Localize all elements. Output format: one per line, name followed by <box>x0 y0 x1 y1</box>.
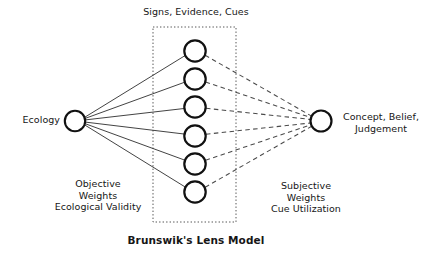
cue-4-judgement-line <box>206 123 310 134</box>
cue-node-2[interactable] <box>184 68 205 89</box>
ecology-cue-5-line <box>85 124 184 160</box>
cue-node-1[interactable] <box>184 40 205 61</box>
cue-3-judgement-line <box>206 108 310 119</box>
ecology-label: Ecology <box>4 114 60 126</box>
ecology-cue-2-line <box>85 82 184 118</box>
cue-node-4[interactable] <box>184 125 205 146</box>
cue-node-3[interactable] <box>184 96 205 117</box>
subjective-weights-label: Subjective Weights Cue Utilization <box>256 180 356 215</box>
cue-1-judgement-line <box>205 55 311 116</box>
cue-5-judgement-line <box>206 125 311 160</box>
brunswik-lens-diagram: Signs, Evidence, Cues Ecology Concept, B… <box>0 0 427 260</box>
ecology-node[interactable] <box>65 111 85 131</box>
cue-to-judgement-lines <box>205 55 311 187</box>
ecology-cue-4-line <box>85 122 184 134</box>
signs-evidence-cues-label: Signs, Evidence, Cues <box>136 6 256 18</box>
cue-6-judgement-line <box>205 126 311 187</box>
judgement-node[interactable] <box>311 111 332 132</box>
ecology-cue-3-line <box>85 109 184 120</box>
objective-weights-label: Objective Weights Ecological Validity <box>46 178 150 213</box>
cue-node-6[interactable] <box>184 181 205 202</box>
diagram-title: Brunswik's Lens Model <box>110 235 282 247</box>
concept-belief-judgement-label: Concept, Belief, Judgement <box>338 111 424 134</box>
ecology-to-cue-lines <box>85 56 185 188</box>
cue-2-judgement-line <box>206 82 311 118</box>
ecology-cue-1-line <box>85 56 185 118</box>
cue-node-5[interactable] <box>184 153 205 174</box>
